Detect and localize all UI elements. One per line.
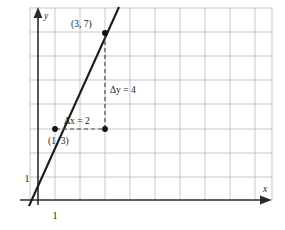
point-upper-label: (3, 7) bbox=[71, 19, 92, 30]
point-lower-label: (1, 3) bbox=[48, 136, 69, 147]
point-corner-3-3 bbox=[102, 126, 108, 132]
axes bbox=[20, 7, 272, 205]
x-axis-label: x bbox=[262, 184, 268, 194]
x-axis-arrow-icon bbox=[260, 195, 272, 204]
point-1-3 bbox=[52, 126, 58, 132]
y-axis-tick-label: 1 bbox=[25, 173, 30, 184]
delta-x-label: Δx = 2 bbox=[64, 116, 90, 126]
y-axis-arrow-icon bbox=[34, 7, 43, 18]
coordinate-graph-figure: (3, 7) (1, 3) Δy = 4 Δx = 2 y x 1 1 bbox=[0, 0, 285, 230]
y-axis-label: y bbox=[43, 11, 49, 21]
grid-lines bbox=[30, 8, 272, 200]
x-axis-tick-label: 1 bbox=[53, 210, 58, 221]
graph-canvas: (3, 7) (1, 3) Δy = 4 Δx = 2 y x 1 1 bbox=[0, 0, 285, 230]
labels: (3, 7) (1, 3) Δy = 4 Δx = 2 y x 1 1 bbox=[25, 11, 269, 221]
point-3-7 bbox=[102, 30, 108, 36]
delta-y-label: Δy = 4 bbox=[110, 85, 136, 95]
guide-lines bbox=[56, 34, 105, 129]
